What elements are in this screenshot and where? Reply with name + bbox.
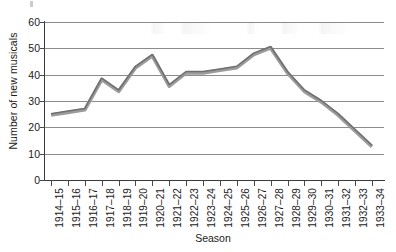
x-axis-tick: [102, 181, 103, 186]
x-axis-tick: [186, 181, 187, 186]
y-axis-tick-label: 10: [18, 148, 40, 159]
series-stroke: [51, 48, 372, 147]
y-axis-tick-label: 40: [18, 69, 40, 80]
x-axis-line: [44, 180, 385, 181]
x-axis-tick: [304, 181, 305, 186]
x-axis-tick: [355, 181, 356, 186]
x-axis-tick: [338, 181, 339, 186]
y-axis-tick-labels: 6050403020100: [18, 0, 40, 252]
y-axis-tick: [40, 154, 45, 155]
y-axis-tick: [40, 48, 45, 49]
line-chart: Number of new musicals 6050403020100 191…: [0, 0, 396, 252]
y-axis-tick-label: 20: [18, 122, 40, 133]
x-axis-tick: [68, 181, 69, 186]
x-axis-tick: [288, 181, 289, 186]
plot-area: [45, 22, 384, 180]
x-axis-tick: [254, 181, 255, 186]
x-axis-tick: [321, 181, 322, 186]
x-axis-tick: [271, 181, 272, 186]
series-stroke: [51, 47, 372, 146]
y-axis-tick-label: 60: [18, 17, 40, 28]
data-series-line: [45, 22, 384, 180]
y-axis-tick-label: 50: [18, 43, 40, 54]
x-axis-tick: [220, 181, 221, 186]
y-axis-tick: [40, 127, 45, 128]
x-axis-tick: [372, 181, 373, 186]
y-axis-tick: [40, 75, 45, 76]
x-axis-tick: [85, 181, 86, 186]
x-axis-tick: [203, 181, 204, 186]
y-axis-tick: [40, 22, 45, 23]
y-axis-tick: [40, 180, 45, 181]
x-axis-title: Season: [0, 232, 396, 244]
y-axis-tick: [40, 101, 45, 102]
x-axis-tick: [169, 181, 170, 186]
x-axis-tick: [237, 181, 238, 186]
x-axis-tick: [135, 181, 136, 186]
x-axis-tick: [119, 181, 120, 186]
y-axis-tick-label: 30: [18, 96, 40, 107]
y-axis-tick-label: 0: [18, 175, 40, 186]
x-axis-tick: [51, 181, 52, 186]
x-axis-tick: [152, 181, 153, 186]
x-axis-title-label: Season: [165, 232, 231, 244]
